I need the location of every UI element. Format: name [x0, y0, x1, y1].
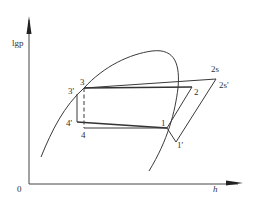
point-label-2sp: 2s' — [219, 80, 229, 90]
point-label-3: 3 — [80, 77, 85, 87]
line-4p-1 — [77, 122, 167, 128]
point-label-2: 2 — [194, 87, 199, 97]
point-label-2s: 2s — [211, 64, 220, 74]
point-label-1: 1 — [161, 118, 166, 128]
point-label-4: 4 — [81, 130, 86, 140]
point-label-1p: 1' — [177, 140, 184, 150]
point-label-4p: 4' — [66, 118, 73, 128]
origin-label: 0 — [17, 184, 22, 194]
y-axis-arrow-icon — [27, 16, 32, 34]
y-axis-label: lgp — [12, 38, 24, 48]
line-1-1p — [167, 128, 176, 142]
point-label-3p: 3' — [68, 86, 75, 96]
x-axis-arrow-icon — [226, 181, 243, 186]
x-axis-label: h — [213, 184, 218, 194]
diagram-canvas: lgp h 0 3 3' 4' 4 1 1' 2 2s 2s' — [0, 0, 253, 204]
saturation-dome-curve — [41, 51, 178, 171]
lgp-h-diagram: lgp h 0 3 3' 4' 4 1 1' 2 2s 2s' — [0, 0, 253, 204]
